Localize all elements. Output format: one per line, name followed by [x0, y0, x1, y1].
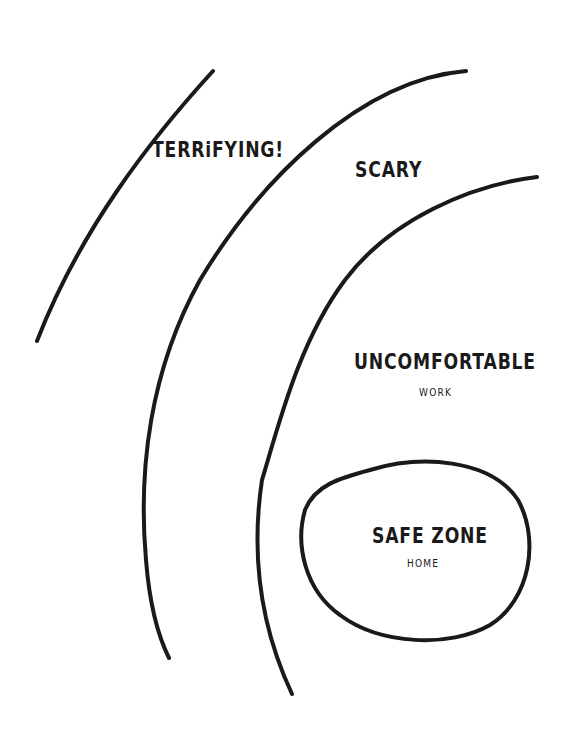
safe-zone-oval	[301, 462, 529, 640]
terrifying-boundary-arc	[37, 71, 213, 341]
safe-zone-sublabel: HOME	[407, 557, 439, 570]
uncomfortable-boundary-arc	[257, 177, 537, 694]
uncomfortable-label: UNCOMFORTABLE	[354, 350, 536, 374]
terrifying-label: TERRiFYING!	[152, 138, 284, 162]
scary-label: SCARY	[355, 158, 422, 182]
uncomfortable-sublabel: WORK	[419, 386, 452, 399]
safe-zone-label: SAFE ZONE	[372, 524, 488, 548]
